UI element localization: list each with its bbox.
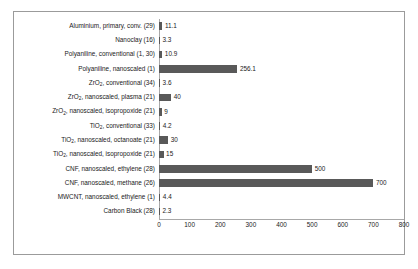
x-axis-tick-label: 600 [337, 222, 348, 228]
x-axis-tick-label: 800 [399, 222, 410, 228]
bar-row-label: Aluminium, primary, conv. (29) [14, 23, 159, 29]
bar-row: TiO2, nanoscaled, octanoate (21)30 [14, 133, 404, 147]
bar-row: MWCNT, nanoscaled, ethylene (1)4.4 [14, 190, 404, 204]
bar-row: ZrO2, nanoscaled, isopropoxide (21)9 [14, 105, 404, 119]
bar-row-label: TiO2, conventional (33) [14, 123, 159, 130]
x-axis-tick-labels: 0100200300400500600700800 [159, 222, 404, 234]
x-axis-line [159, 219, 404, 220]
bar-row: CNF, nanoscaled, ethylene (28)500 [14, 162, 404, 176]
bar [159, 165, 312, 173]
bar-row: Polyaniline, nanoscaled (1)256.1 [14, 62, 404, 76]
bar-value-label: 30 [168, 137, 178, 143]
bar-row-label: TiO2, nanoscaled, octanoate (21) [14, 137, 159, 144]
bar-row: Polyaniline, conventional (1, 30)10.9 [14, 48, 404, 62]
bar-value-label: 40 [171, 94, 181, 100]
bar-row-label: ZrO2, nanoscaled, plasma (21) [14, 94, 159, 101]
bar-track: 3.3 [159, 33, 404, 47]
bar-track: 2.3 [159, 204, 404, 218]
bar-row: Nanoclay (16)3.3 [14, 33, 404, 47]
bar-track: 3.6 [159, 76, 404, 90]
x-axis-tick-label: 700 [368, 222, 379, 228]
bar-row-label: ZrO2, conventional (34) [14, 80, 159, 87]
bar-value-label: 9 [162, 109, 168, 115]
bar-track: 4.4 [159, 190, 404, 204]
bar [159, 136, 168, 144]
bar-row-label: TiO2, nanoscaled, isopropoxide (21) [14, 151, 159, 158]
x-axis-tick-label: 100 [184, 222, 195, 228]
bar-value-label: 700 [373, 180, 386, 186]
bar-value-label: 3.6 [160, 80, 171, 86]
bar-value-label: 500 [312, 166, 325, 172]
bar-value-label: 11.1 [162, 23, 176, 29]
x-axis-tick-label: 0 [157, 222, 161, 228]
bar-track: 40 [159, 90, 404, 104]
bar-row-label: CNF, nanoscaled, ethylene (28) [14, 166, 159, 172]
bar-row: Aluminium, primary, conv. (29)11.1 [14, 19, 404, 33]
bar-track: 11.1 [159, 19, 404, 33]
bar-row-label: Polyaniline, conventional (1, 30) [14, 51, 159, 57]
bar-track: 500 [159, 162, 404, 176]
bar-value-label: 4.2 [160, 123, 171, 129]
bar-row-label: CNF, nanoscaled, methane (26) [14, 180, 159, 186]
chart-figure: Aluminium, primary, conv. (29)11.1Nanocl… [13, 11, 405, 255]
bar [159, 94, 171, 102]
bar [159, 65, 237, 73]
bar-value-label: 2.3 [160, 208, 171, 214]
bar-track: 30 [159, 133, 404, 147]
bar-track: 700 [159, 176, 404, 190]
bar-row: TiO2, nanoscaled, isopropoxide (21)15 [14, 147, 404, 161]
bar-row: ZrO2, conventional (34)3.6 [14, 76, 404, 90]
bar-value-label: 4.4 [160, 194, 171, 200]
bar-value-label: 15 [164, 151, 174, 157]
x-axis-tick-label: 200 [215, 222, 226, 228]
bar-track: 256.1 [159, 62, 404, 76]
bar-value-label: 10.9 [162, 51, 177, 57]
plot-area: Aluminium, primary, conv. (29)11.1Nanocl… [14, 12, 404, 254]
bar-row: ZrO2, nanoscaled, plasma (21)40 [14, 90, 404, 104]
bar-row: Carbon Black (28)2.3 [14, 204, 404, 218]
bar-rows: Aluminium, primary, conv. (29)11.1Nanocl… [14, 19, 404, 219]
bar-row-label: ZrO2, nanoscaled, isopropoxide (21) [14, 108, 159, 115]
bar-row-label: MWCNT, nanoscaled, ethylene (1) [14, 194, 159, 200]
x-axis-tick-label: 500 [307, 222, 318, 228]
bar-track: 9 [159, 105, 404, 119]
bar-value-label: 3.3 [160, 37, 171, 43]
bar-track: 10.9 [159, 48, 404, 62]
x-axis-tick-label: 400 [276, 222, 287, 228]
bar-row: TiO2, conventional (33)4.2 [14, 119, 404, 133]
bar-row-label: Polyaniline, nanoscaled (1) [14, 66, 159, 72]
bar-value-label: 256.1 [237, 66, 256, 72]
bar-track: 4.2 [159, 119, 404, 133]
bar-row-label: Carbon Black (28) [14, 208, 159, 214]
x-axis-tick-label: 300 [246, 222, 257, 228]
bar [159, 179, 373, 187]
bar-track: 15 [159, 147, 404, 161]
bar-row: CNF, nanoscaled, methane (26)700 [14, 176, 404, 190]
bar-row-label: Nanoclay (16) [14, 37, 159, 43]
